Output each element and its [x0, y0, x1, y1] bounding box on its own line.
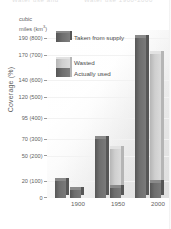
- bar-top-face: [110, 146, 121, 149]
- legend-item-wasted: Wasted Actually used: [56, 59, 111, 77]
- bar-top-face: [150, 51, 161, 54]
- bar: [110, 149, 121, 188]
- bar-front-face: [110, 149, 121, 188]
- legend-swatch-side: [70, 31, 72, 40]
- legend-swatch-wasted-side: [70, 57, 72, 77]
- y-axis-unit-caption: cubic miles (km3): [19, 16, 47, 33]
- bar-front-face: [70, 190, 81, 198]
- bar-top-face: [55, 178, 66, 181]
- top-caption-right: Water use 1900-2000: [84, 0, 153, 3]
- y-tick-mark: [44, 38, 47, 39]
- bar-top-face: [110, 185, 121, 188]
- bar-front-face: [135, 38, 146, 198]
- y-tick-text: 20 (100): [22, 178, 43, 184]
- bar: [135, 38, 146, 198]
- y-tick-label: 170 (700): [0, 52, 47, 58]
- y-tick-mark: [44, 139, 47, 140]
- bar-side-face: [121, 185, 124, 195]
- y-tick-text: 140 (600): [19, 77, 43, 83]
- legend-item-taken-from-supply: Taken from supply: [56, 33, 124, 42]
- legend-swatch-wasted-top: [56, 57, 70, 59]
- water-use-bar-chart: Water use and Water use 1900-2000 Covera…: [0, 0, 171, 229]
- y-tick-text: 95 (400): [22, 115, 43, 121]
- bar-front-face: [95, 139, 106, 198]
- bar-side-face: [161, 180, 164, 195]
- y-tick-text: 120 (500): [19, 94, 43, 100]
- bar: [70, 190, 81, 198]
- y-tick-label: 70 (300): [0, 136, 47, 142]
- y-tick-mark: [44, 80, 47, 81]
- bar-side-face: [106, 136, 109, 195]
- y-tick-label: 140 (600): [0, 77, 47, 83]
- y-tick-text: 170 (700): [19, 52, 43, 58]
- bar-top-face: [95, 136, 106, 139]
- y-tick-mark: [44, 118, 47, 119]
- y-tick-mark: [44, 181, 47, 182]
- bar-top-face: [70, 187, 81, 190]
- y-tick-text: 70 (300): [22, 136, 43, 142]
- y-tick-text: 50 (200): [22, 153, 43, 159]
- legend-swatch-wasted-and-used: [56, 59, 70, 77]
- bar-front-face: [150, 54, 161, 183]
- x-tick-label: 1900: [61, 200, 95, 207]
- y-tick-mark: [44, 55, 47, 56]
- legend-label-wasted: Wasted: [74, 59, 111, 66]
- legend-swatch-taken-from-supply: [56, 33, 70, 42]
- y-tick-mark: [44, 155, 47, 156]
- y-tick-mark: [44, 197, 47, 198]
- bar: [110, 188, 121, 198]
- y-tick-label: 190 (800): [0, 35, 47, 41]
- y-tick-label: 95 (400): [0, 115, 47, 121]
- y-tick-label: 50 (200): [0, 153, 47, 159]
- page-right-edge: [169, 0, 171, 229]
- bar-top-face: [150, 180, 161, 183]
- legend-swatch-used-face: [56, 68, 70, 77]
- legend-label-actually-used: Actually used: [74, 70, 111, 77]
- bar-front-face: [55, 181, 66, 198]
- bar-top-face: [135, 35, 146, 38]
- y-tick-label: 0: [0, 195, 47, 201]
- legend-swatch-top: [56, 31, 70, 33]
- legend-swatch-face: [56, 33, 70, 42]
- unit-line-2: miles (km: [19, 26, 43, 32]
- unit-line-1: cubic: [19, 16, 32, 22]
- bar-front-face: [150, 183, 161, 198]
- bar-side-face: [146, 35, 149, 195]
- bar: [150, 54, 161, 183]
- y-tick-text: 0: [39, 195, 42, 201]
- legend-swatch-wasted-face: [56, 59, 70, 68]
- bar: [150, 183, 161, 198]
- bar-side-face: [161, 51, 164, 180]
- top-caption-left: Water use and: [12, 0, 59, 3]
- y-tick-label: 20 (100): [0, 178, 47, 184]
- y-tick-mark: [44, 97, 47, 98]
- bar-side-face: [81, 187, 84, 195]
- bar-front-face: [110, 188, 121, 198]
- bar-side-face: [121, 146, 124, 185]
- legend-label-taken-from-supply: Taken from supply: [74, 34, 124, 41]
- x-tick-label: 2000: [141, 200, 171, 207]
- y-tick-text: 190 (800): [19, 35, 43, 41]
- y-tick-label: 120 (500): [0, 94, 47, 100]
- bar: [95, 139, 106, 198]
- plot-area: [47, 30, 169, 198]
- bar-side-face: [66, 178, 69, 195]
- cropped-top-caption: Water use and Water use 1900-2000: [0, 0, 171, 11]
- bar: [55, 181, 66, 198]
- x-tick-label: 1950: [101, 200, 135, 207]
